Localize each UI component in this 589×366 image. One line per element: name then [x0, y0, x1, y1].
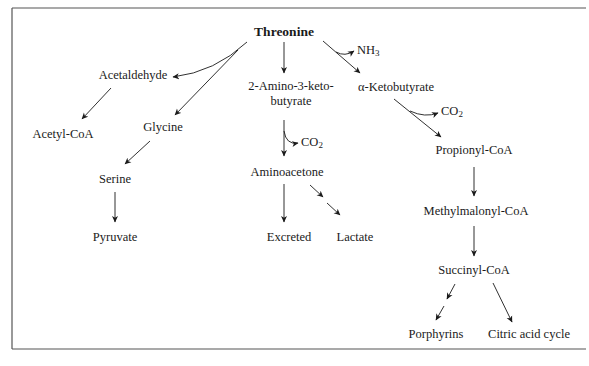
node-succinyl-coa: Succinyl-CoA — [438, 263, 510, 278]
node-alpha-ketobutyrate: α-Ketobutyrate — [358, 80, 434, 95]
node-aminoketo-line2: butyrate — [248, 94, 333, 109]
byproduct-co2-a: CO2 — [301, 135, 323, 150]
node-aminoketo-line1: 2-Amino-3-keto- — [248, 79, 333, 94]
co2-b-label: CO — [441, 104, 458, 118]
arrow-acetaldehyde-acetylcoa — [82, 88, 111, 119]
arrow-co2-release-b — [410, 111, 438, 115]
node-pyruvate: Pyruvate — [93, 230, 137, 245]
node-lactate: Lactate — [337, 230, 374, 245]
co2-a-subscript: 2 — [318, 140, 323, 150]
arrows-layer — [0, 0, 589, 366]
node-propionyl-coa: Propionyl-CoA — [435, 143, 512, 158]
co2-b-subscript: 2 — [458, 109, 463, 119]
arrow-succinyl-citric — [493, 283, 512, 322]
co2-a-label: CO — [301, 135, 318, 149]
node-2-amino-3-ketobutyrate: 2-Amino-3-keto- butyrate — [248, 79, 333, 109]
arrow-glycine-serine — [125, 141, 150, 164]
node-citric-acid-cycle: Citric acid cycle — [488, 327, 570, 342]
arrow-succinyl-porphyrins-2 — [436, 306, 444, 320]
node-aminoacetone: Aminoacetone — [251, 165, 324, 180]
nh3-subscript: 3 — [375, 48, 380, 58]
arrow-threonine-ketobutyrate — [323, 41, 360, 73]
arrow-nh3-release — [336, 51, 354, 54]
node-porphyrins: Porphyrins — [409, 327, 464, 342]
arrow-aminoacetone-lactate-1 — [310, 185, 323, 197]
arrow-succinyl-porphyrins-1 — [447, 284, 455, 299]
byproduct-co2-b: CO2 — [441, 104, 463, 119]
arrow-aminoacetone-lactate-2 — [327, 203, 340, 215]
arrow-co2-release-a — [284, 131, 298, 143]
byproduct-nh3: NH3 — [357, 43, 380, 58]
arrow-ketobutyrate-propionylcoa — [394, 99, 441, 137]
node-excreted: Excreted — [267, 230, 311, 245]
nh3-label: NH — [357, 43, 375, 57]
node-serine: Serine — [99, 172, 131, 187]
arrow-threonine-glycine — [175, 50, 238, 115]
node-acetyl-coa: Acetyl-CoA — [32, 127, 93, 142]
arrow-threonine-acetaldehyde — [173, 42, 247, 77]
node-methylmalonyl-coa: Methylmalonyl-CoA — [424, 204, 529, 219]
threonine-pathway-diagram: Threonine NH3 Acetaldehyde Acetyl-CoA Gl… — [0, 0, 589, 366]
node-acetaldehyde: Acetaldehyde — [99, 68, 168, 83]
node-glycine: Glycine — [143, 120, 183, 135]
node-threonine: Threonine — [254, 24, 314, 39]
